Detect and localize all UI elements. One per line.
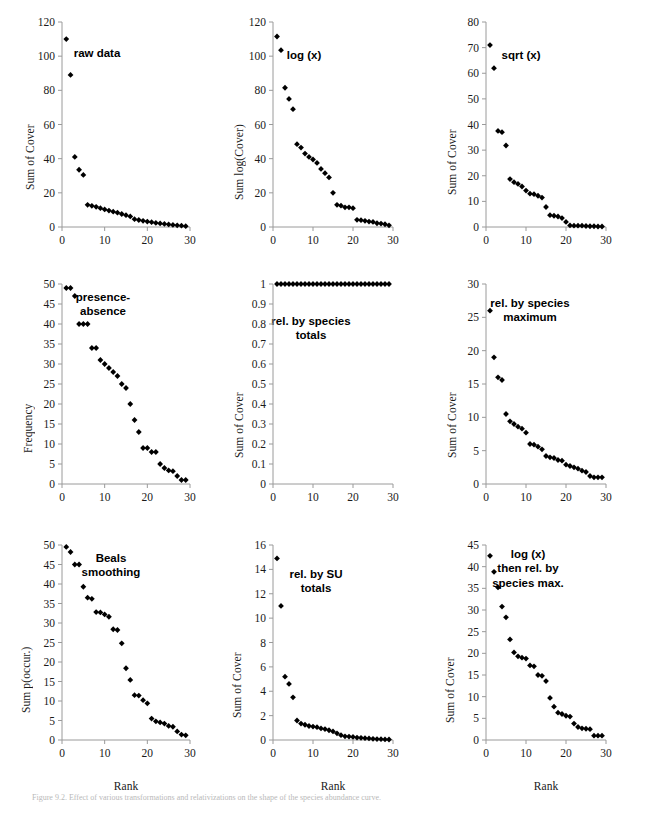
data-point: [80, 584, 86, 590]
data-point: [539, 673, 545, 679]
y-tick-label: 0.6: [252, 358, 267, 370]
x-tick-label: 0: [270, 491, 276, 503]
data-point: [153, 449, 159, 455]
figure-panel-grid: Sum of Coverraw data02040608010012001020…: [0, 0, 650, 790]
y-tick-label: 10: [255, 612, 267, 624]
y-tick-label: 0.1: [252, 458, 267, 470]
data-point: [127, 401, 133, 407]
y-tick-label: 100: [38, 50, 56, 62]
panel-raw-data: Sum of Coverraw data02040608010012001020…: [0, 0, 215, 268]
y-tick-label: 25: [468, 626, 480, 638]
data-point: [136, 217, 142, 223]
y-tick-label: 5: [473, 712, 479, 724]
data-series: [487, 553, 605, 739]
data-point: [110, 626, 116, 632]
x-tick-label: 10: [520, 234, 532, 246]
data-point: [85, 321, 91, 327]
data-point: [110, 209, 116, 215]
data-point: [599, 474, 605, 480]
x-tick-label: 30: [387, 491, 399, 503]
data-point: [174, 473, 180, 479]
data-point: [499, 604, 505, 610]
data-point: [386, 737, 392, 743]
x-tick-label: 0: [59, 747, 65, 759]
data-point: [144, 700, 150, 706]
y-tick-label: 0: [49, 221, 55, 233]
data-point: [523, 188, 529, 194]
panel-rel-by-su-totals: Sum of Coverrel. by SU totals02468101214…: [215, 533, 420, 790]
panel-sqrt-x: Sum of Coversqrt (x)01020304050607080010…: [420, 0, 650, 268]
y-tick-label: 80: [255, 84, 267, 96]
plot-area: 0204060801001200102030: [24, 14, 198, 253]
y-tick-label: 0.5: [252, 378, 267, 390]
y-tick-label: 2: [260, 710, 266, 722]
x-tick-label: 30: [387, 234, 399, 246]
y-tick-label: 20: [255, 187, 267, 199]
x-tick-label: 30: [600, 234, 612, 246]
data-point: [119, 211, 125, 217]
panel-presence-absence: Frequencypresence- absence05101520253035…: [0, 268, 215, 533]
x-tick-label: 0: [483, 491, 489, 503]
data-point: [89, 596, 95, 602]
plot-area: 02468101214160102030: [235, 537, 401, 766]
data-point: [503, 143, 509, 149]
data-point: [382, 221, 388, 227]
y-tick-label: 0.2: [252, 438, 267, 450]
data-point: [274, 556, 280, 562]
data-point: [106, 208, 112, 214]
data-point: [563, 219, 569, 225]
data-point: [599, 733, 605, 739]
data-point: [298, 145, 304, 151]
data-series: [487, 42, 605, 229]
data-point: [93, 204, 99, 210]
data-point: [491, 65, 497, 71]
data-point: [282, 674, 288, 680]
y-tick-label: 5: [49, 715, 55, 727]
data-point: [491, 569, 497, 575]
data-point: [503, 411, 509, 417]
x-axis-label: Rank: [273, 780, 393, 792]
y-tick-label: 0: [49, 734, 55, 746]
data-point: [149, 716, 155, 722]
data-series: [274, 34, 392, 229]
y-tick-label: 0: [473, 478, 479, 490]
data-point: [68, 72, 74, 78]
y-tick-label: 60: [468, 67, 480, 79]
y-tick-label: 0: [473, 221, 479, 233]
data-point: [106, 365, 112, 371]
y-tick-label: 70: [468, 42, 480, 54]
y-tick-label: 60: [255, 119, 267, 131]
x-tick-label: 20: [142, 491, 154, 503]
data-point: [115, 373, 121, 379]
data-point: [127, 214, 133, 220]
x-tick-label: 10: [307, 234, 319, 246]
y-tick-label: 35: [468, 582, 480, 594]
y-tick-label: 10: [44, 438, 56, 450]
y-tick-label: 5: [49, 458, 55, 470]
x-tick-label: 20: [560, 747, 572, 759]
data-point: [63, 36, 69, 42]
data-point: [132, 417, 138, 423]
y-tick-label: 40: [44, 578, 56, 590]
data-point: [278, 47, 284, 53]
data-point: [123, 212, 129, 218]
data-point: [170, 724, 176, 730]
y-tick-label: 35: [44, 598, 56, 610]
data-point: [183, 732, 189, 738]
y-tick-label: 0: [49, 478, 55, 490]
plot-area: 0204060801001200102030: [235, 14, 401, 253]
y-tick-label: 0.4: [252, 398, 267, 410]
y-tick-label: 16: [255, 539, 267, 551]
data-point: [123, 665, 129, 671]
y-tick-label: 10: [44, 695, 56, 707]
data-point: [523, 656, 529, 662]
data-point: [543, 678, 549, 684]
data-point: [140, 218, 146, 224]
x-tick-label: 10: [520, 491, 532, 503]
panel-log-x: Sum log(Cover)log (x)0204060801001200102…: [215, 0, 420, 268]
y-tick-label: 1: [260, 278, 266, 290]
y-tick-label: 45: [468, 539, 480, 551]
data-point: [286, 681, 292, 687]
data-point: [68, 549, 74, 555]
x-axis-label: Rank: [486, 780, 606, 792]
